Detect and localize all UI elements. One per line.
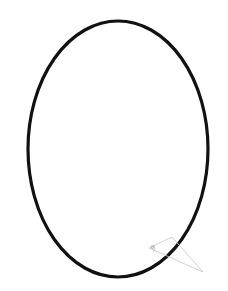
angle-label: θ xyxy=(151,244,154,250)
figure-canvas: θ xyxy=(0,0,228,291)
geometry-figure-svg: θ xyxy=(0,0,228,291)
figure-background xyxy=(0,0,228,291)
